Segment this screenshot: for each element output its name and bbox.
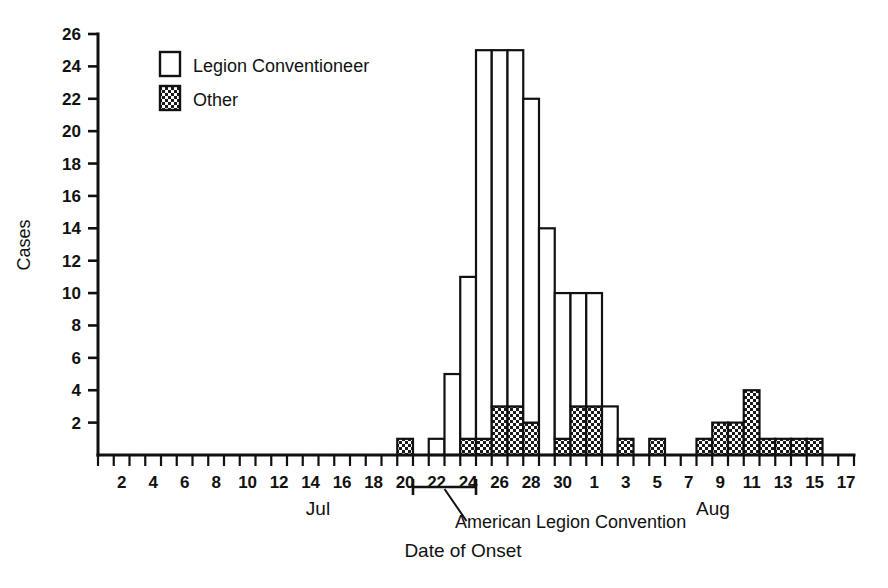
x-tick-label: 14 xyxy=(301,473,320,492)
x-axis-title: Date of Onset xyxy=(404,540,522,561)
y-tick-label: 18 xyxy=(62,155,81,174)
convention-annotation-label: American Legion Convention xyxy=(455,512,686,532)
bar-segment-other xyxy=(649,439,665,455)
bar-segment-other xyxy=(744,390,760,455)
bar-segment-other xyxy=(728,423,744,455)
x-tick-label: 12 xyxy=(270,473,289,492)
bar-segment-other xyxy=(791,439,807,455)
x-tick-label: 28 xyxy=(522,473,541,492)
x-tick-label: 7 xyxy=(684,473,693,492)
y-tick-label: 26 xyxy=(62,25,81,44)
x-tick-label: 6 xyxy=(180,473,189,492)
bar-segment-other xyxy=(555,439,571,455)
y-tick-label: 24 xyxy=(62,57,81,76)
x-tick-label: 2 xyxy=(117,473,126,492)
bar-segment-conventioneer xyxy=(571,293,587,406)
legend-label-conventioneer: Legion Conventioneer xyxy=(193,56,369,76)
x-tick-label: 26 xyxy=(490,473,509,492)
x-tick-label: 9 xyxy=(715,473,724,492)
bar-segment-other xyxy=(697,439,713,455)
x-tick-label: 16 xyxy=(333,473,352,492)
bar-segment-other xyxy=(807,439,823,455)
bar-segment-conventioneer xyxy=(523,99,539,423)
month-label-aug: Aug xyxy=(696,498,730,519)
x-tick-label: 3 xyxy=(621,473,630,492)
bar-segment-conventioneer xyxy=(508,50,524,406)
x-tick-label: 11 xyxy=(743,473,761,492)
y-axis-title: Cases xyxy=(14,219,34,270)
bar-segment-conventioneer xyxy=(476,50,492,439)
bar-segment-conventioneer xyxy=(586,293,602,406)
x-tick-label: 18 xyxy=(364,473,383,492)
bar-segment-other xyxy=(476,439,492,455)
x-tick-label: 30 xyxy=(553,473,572,492)
bar-segment-other xyxy=(586,406,602,455)
y-tick-label: 12 xyxy=(62,252,81,271)
bar-segment-conventioneer xyxy=(602,406,618,455)
chart-legend: Legion Conventioneer Other xyxy=(160,52,369,110)
bar-segment-conventioneer xyxy=(429,439,445,455)
y-tick-label: 10 xyxy=(62,284,81,303)
bar-segment-conventioneer xyxy=(555,293,571,439)
x-tick-label: 5 xyxy=(652,473,661,492)
bar-segment-other xyxy=(523,423,539,455)
x-tick-label: 17 xyxy=(837,473,856,492)
x-tick-label: 1 xyxy=(589,473,598,492)
legend-label-other: Other xyxy=(193,90,238,110)
bar-segment-conventioneer xyxy=(539,228,555,455)
chart-canvas: 2468101214161820222426 24681012141618202… xyxy=(0,0,888,588)
x-tick-label: 15 xyxy=(805,473,824,492)
bar-segment-other xyxy=(460,439,476,455)
legend-swatch-conventioneer xyxy=(160,52,180,76)
epidemic-curve-chart: 2468101214161820222426 24681012141618202… xyxy=(0,0,888,588)
x-tick-label: 4 xyxy=(148,473,158,492)
bar-segment-other xyxy=(618,439,634,455)
bar-segment-conventioneer xyxy=(460,277,476,439)
x-tick-label: 10 xyxy=(238,473,257,492)
bar-segment-other xyxy=(571,406,587,455)
bar-segment-other xyxy=(760,439,776,455)
bar-segment-other xyxy=(508,406,524,455)
bar-segment-other xyxy=(397,439,413,455)
y-axis-ticks: 2468101214161820222426 xyxy=(62,25,98,433)
bar-segment-conventioneer xyxy=(445,374,461,455)
histogram-bars xyxy=(397,50,822,455)
y-tick-label: 6 xyxy=(72,349,81,368)
bar-segment-other xyxy=(712,423,728,455)
y-tick-label: 16 xyxy=(62,187,81,206)
bar-segment-conventioneer xyxy=(492,50,508,406)
y-tick-label: 20 xyxy=(62,122,81,141)
month-label-jul: Jul xyxy=(306,498,330,519)
y-tick-label: 8 xyxy=(72,316,81,335)
y-tick-label: 14 xyxy=(62,219,81,238)
x-tick-label: 13 xyxy=(774,473,793,492)
x-tick-label: 22 xyxy=(427,473,446,492)
x-tick-label: 8 xyxy=(211,473,220,492)
bar-segment-other xyxy=(775,439,791,455)
y-tick-label: 2 xyxy=(72,414,81,433)
bar-segment-other xyxy=(492,406,508,455)
y-tick-label: 22 xyxy=(62,90,81,109)
y-tick-label: 4 xyxy=(72,381,82,400)
legend-swatch-other xyxy=(160,86,180,110)
